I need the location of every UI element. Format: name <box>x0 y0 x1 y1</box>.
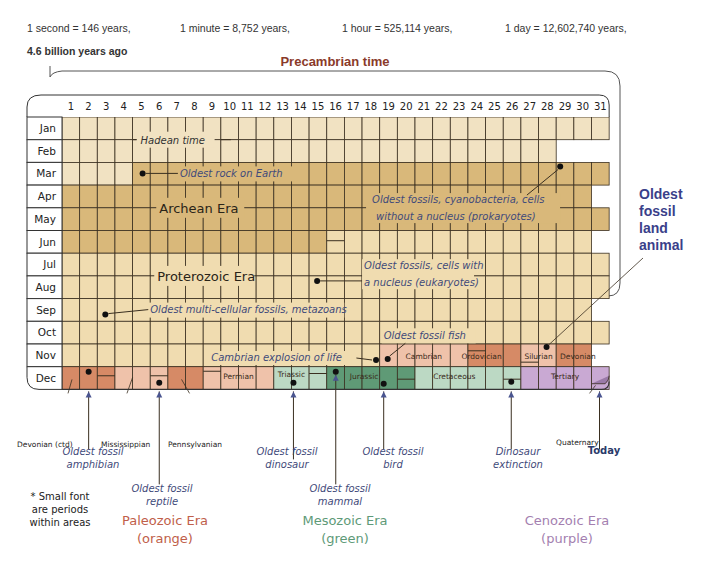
day-header: 14 <box>294 101 307 112</box>
svg-text:Triassic: Triassic <box>277 370 305 379</box>
legend-mesozoic: Mesozoic Era (green) <box>290 512 400 548</box>
day-header: 21 <box>417 101 430 112</box>
day-header: 27 <box>523 101 536 112</box>
day-header: 18 <box>365 101 378 112</box>
day-header: 30 <box>576 101 589 112</box>
svg-text:without a nucleus (prokaryotes: without a nucleus (prokaryotes) <box>376 211 536 222</box>
annotation-dinosaur-extinction: Dinosaur extinction <box>482 445 554 471</box>
svg-text:Cretaceous: Cretaceous <box>433 372 475 381</box>
label-pennsylvanian: Pennsylvanian <box>168 440 222 449</box>
day-header: 16 <box>329 101 342 112</box>
mammal-line2: mammal <box>304 495 376 508</box>
month-label: Apr <box>38 190 57 202</box>
paleozoic-line2: (orange) <box>110 530 220 548</box>
cenozoic-line1: Cenozoic Era <box>512 512 622 530</box>
day-header: 9 <box>209 101 215 112</box>
month-label: May <box>34 213 56 225</box>
day-header: 20 <box>400 101 413 112</box>
mesozoic-line2: (green) <box>290 530 400 548</box>
day-header: 4 <box>121 101 127 112</box>
svg-text:Silurian: Silurian <box>524 352 552 361</box>
svg-text:Oldest fossil fish: Oldest fossil fish <box>384 330 466 341</box>
svg-text:Permian: Permian <box>223 372 254 381</box>
svg-text:Cambrian explosion of life: Cambrian explosion of life <box>211 352 342 363</box>
day-header: 7 <box>174 101 180 112</box>
day-header: 25 <box>488 101 501 112</box>
day-header: 15 <box>312 101 325 112</box>
month-label: Jun <box>39 236 56 248</box>
svg-text:Jurassic: Jurassic <box>349 372 379 381</box>
annotation-dinosaur: Oldest fossil dinosaur <box>251 445 323 471</box>
cenozoic-line2: (purple) <box>512 530 622 548</box>
day-header: 28 <box>541 101 554 112</box>
day-header: 10 <box>223 101 236 112</box>
land-animal-line1: Oldest <box>639 186 683 203</box>
day-header: 19 <box>382 101 395 112</box>
month-label: Mar <box>36 167 56 179</box>
month-label: Nov <box>36 349 57 361</box>
svg-text:Hadean time: Hadean time <box>141 135 205 146</box>
land-animal-line3: land <box>639 220 683 237</box>
land-animal-line2: fossil <box>639 203 683 220</box>
day-header: 13 <box>276 101 289 112</box>
svg-text:Oldest fossils, cyanobacteria,: Oldest fossils, cyanobacteria, cells <box>372 194 544 205</box>
svg-text:Oldest multi-cellular fossils,: Oldest multi-cellular fossils, metazoans <box>150 304 347 315</box>
bird-line1: Oldest fossil <box>357 445 429 458</box>
land-animal-line4: animal <box>639 237 683 254</box>
day-header: 2 <box>85 101 91 112</box>
dinosaur-line1: Oldest fossil <box>251 445 323 458</box>
reptile-line2: reptile <box>126 495 198 508</box>
legend-cenozoic: Cenozoic Era (purple) <box>512 512 622 548</box>
annotation-amphibian: Oldest fossil amphibian <box>57 445 129 471</box>
reptile-line1: Oldest fossil <box>126 482 198 495</box>
month-label: Jul <box>42 258 56 270</box>
svg-text:Ordovician: Ordovician <box>461 352 502 361</box>
annotation-bird: Oldest fossil bird <box>357 445 429 471</box>
day-header: 24 <box>470 101 483 112</box>
note-line2: are periods <box>24 503 96 516</box>
month-label: Oct <box>38 326 56 338</box>
legend-paleozoic: Paleozoic Era (orange) <box>110 512 220 548</box>
day-header: 23 <box>453 101 466 112</box>
day-header: 3 <box>103 101 109 112</box>
day-header: 12 <box>259 101 272 112</box>
svg-text:Cambrian: Cambrian <box>406 352 443 361</box>
annotation-reptile: Oldest fossil reptile <box>126 482 198 508</box>
day-header: 8 <box>191 101 197 112</box>
day-header: 29 <box>559 101 572 112</box>
svg-text:Devonian: Devonian <box>560 352 596 361</box>
bird-line2: bird <box>357 458 429 471</box>
svg-text:Proterozoic Era: Proterozoic Era <box>157 269 255 284</box>
svg-text:a nucleus (eukaryotes): a nucleus (eukaryotes) <box>364 277 479 288</box>
day-header: 31 <box>594 101 607 112</box>
month-label: Dec <box>36 372 57 384</box>
day-header: 26 <box>506 101 519 112</box>
svg-text:Oldest fossils, cells with: Oldest fossils, cells with <box>364 260 483 271</box>
day-header: 5 <box>138 101 144 112</box>
oldest-land-animal-label: Oldest fossil land animal <box>639 186 683 254</box>
legend-note: * Small font are periods within areas <box>24 490 96 529</box>
svg-text:Archean Era: Archean Era <box>159 201 238 216</box>
extinction-line1: Dinosaur <box>482 445 554 458</box>
mesozoic-line1: Mesozoic Era <box>290 512 400 530</box>
svg-text:Oldest rock on Earth: Oldest rock on Earth <box>180 168 283 179</box>
month-label: Sep <box>36 304 56 316</box>
svg-text:Tertiary: Tertiary <box>550 372 580 381</box>
note-line3: within areas <box>24 516 96 529</box>
extinction-line2: extinction <box>482 458 554 471</box>
geologic-calendar: 1234567891011121314151617181920212223242… <box>0 0 710 561</box>
day-header: 22 <box>435 101 448 112</box>
day-header: 6 <box>156 101 162 112</box>
month-label: Aug <box>35 281 56 293</box>
paleozoic-line1: Paleozoic Era <box>110 512 220 530</box>
dinosaur-line2: dinosaur <box>251 458 323 471</box>
amphibian-line2: amphibian <box>57 458 129 471</box>
day-header: 11 <box>241 101 254 112</box>
amphibian-line1: Oldest fossil <box>57 445 129 458</box>
annotation-today: Today <box>585 445 623 456</box>
month-label: Feb <box>37 145 56 157</box>
mammal-line1: Oldest fossil <box>304 482 376 495</box>
month-label: Jan <box>39 122 56 134</box>
annotation-mammal: Oldest fossil mammal <box>304 482 376 508</box>
day-header: 17 <box>347 101 360 112</box>
